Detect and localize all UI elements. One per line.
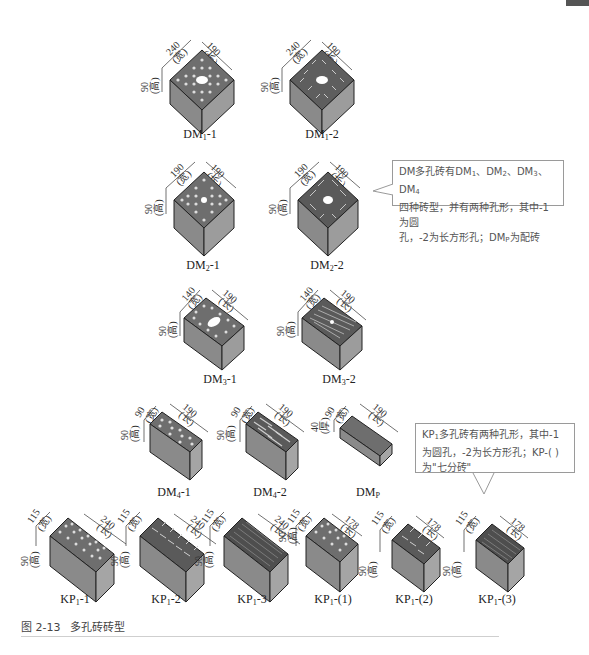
- brick-dm3-2: 140 (宽) 190 (长) 90 (高): [274, 286, 384, 371]
- brick-label-dm3-1: DM3-1: [203, 372, 236, 387]
- brick-label-kp1-3: KP1-3: [237, 592, 266, 607]
- brick-label-kp1-paren-2: KP1-(2): [395, 592, 432, 607]
- brick-label-dm4-2: DM4-2: [253, 485, 286, 500]
- brick-label-kp1-1: KP1-1: [60, 592, 89, 607]
- svg-text:(高): (高): [276, 199, 289, 216]
- svg-text:(高): (高): [148, 77, 161, 94]
- brick-dm2-2: 190 (宽) 190 (长) 90 (高): [264, 160, 374, 250]
- brick-label-dm2-2: DM2-2: [310, 258, 343, 273]
- brick-label-dmp: DMP: [356, 485, 380, 500]
- callout-dm-pointer: [372, 183, 394, 197]
- brick-dm1-2: 240 (宽) 190 (长) 90 (高): [256, 38, 366, 123]
- brick-label-dm1-2: DM1-2: [305, 127, 338, 142]
- brick-label-kp1-2: KP1-2: [151, 592, 180, 607]
- svg-text:(高): (高): [166, 321, 179, 338]
- callout-kp-pointer: [472, 472, 496, 496]
- brick-label-kp1-paren-1: KP1-(1): [314, 592, 351, 607]
- svg-text:(高): (高): [268, 77, 281, 94]
- svg-text:(高): (高): [366, 561, 379, 578]
- brick-label-dm4-1: DM4-1: [157, 485, 190, 500]
- caption-divider: [21, 636, 499, 637]
- brick-dm1-1: 240 (宽) 190 (长) 90 (高): [136, 38, 246, 123]
- brick-label-kp1-paren-3: KP1-(3): [478, 592, 515, 607]
- callout-dm-note: DM多孔砖有DM1、DM2、DM3、DM4 四种砖型，并有两种孔形，其中-1为圆…: [392, 160, 564, 206]
- brick-dmp: 90 (宽) 190 (长) 40 (厚): [308, 400, 418, 485]
- svg-text:(厚): (厚): [319, 417, 331, 434]
- svg-text:(高): (高): [128, 425, 141, 442]
- callout-kp-note: KP1多孔砖有两种孔形，其中-1 为圆孔，-2为长方形孔；KP-( ) 为"七分…: [415, 423, 575, 473]
- brick-label-dm3-2: DM3-2: [322, 372, 355, 387]
- brick-dm3-1: 140 (宽) 190 (长) 90 (高): [156, 286, 266, 371]
- svg-text:(高): (高): [152, 199, 165, 216]
- svg-text:(高): (高): [224, 425, 237, 442]
- figure-number: 图 2-13: [21, 621, 60, 634]
- figure-title: 多孔砖砖型: [70, 621, 125, 634]
- svg-text:(高): (高): [118, 551, 131, 568]
- svg-text:(高): (高): [284, 321, 297, 338]
- svg-text:(高): (高): [28, 551, 41, 568]
- figure-caption: 图 2-13多孔砖砖型: [21, 618, 125, 634]
- brick-label-dm1-1: DM1-1: [183, 127, 216, 142]
- brick-dm4-1: 90 (宽) 190 (长) 90 (高): [118, 400, 228, 485]
- brick-dm2-1: 190 (宽) 190 (长) 90 (高): [140, 160, 250, 250]
- brick-label-dm2-1: DM2-1: [186, 258, 219, 273]
- svg-text:(高): (高): [450, 561, 463, 578]
- svg-text:(高): (高): [202, 551, 215, 568]
- page-corner-tab: [566, 0, 589, 6]
- svg-text:(高): (高): [286, 527, 299, 544]
